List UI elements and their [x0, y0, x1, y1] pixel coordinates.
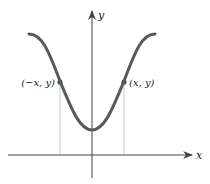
graph-canvas: (−x, y) (x, y) y x: [0, 0, 210, 184]
y-axis-label: y: [97, 9, 105, 22]
x-axis-label: x: [196, 149, 203, 162]
point-left-label: (−x, y): [21, 77, 55, 88]
point-right-label: (x, y): [129, 77, 155, 88]
point-left: [57, 79, 62, 84]
point-right: [121, 79, 126, 84]
